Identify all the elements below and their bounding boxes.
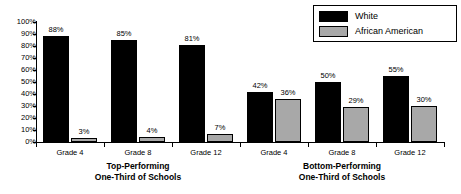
x-axis-separator (104, 142, 105, 147)
bar-value-label: 4% (133, 127, 171, 135)
y-axis-tick-label: 100% (2, 18, 36, 26)
bar-value-label: 50% (309, 72, 347, 80)
y-axis-line (36, 21, 37, 143)
group-title-line1: Top-Performing (48, 161, 228, 172)
group-title-line1: Bottom-Performing (252, 161, 432, 172)
y-axis-tick-label: 80% (2, 42, 36, 50)
bar-value-label: 7% (201, 124, 239, 132)
bar (383, 76, 409, 142)
bar (411, 106, 437, 142)
bar-value-label: 81% (173, 35, 211, 43)
x-axis-separator (36, 142, 37, 147)
bar (275, 99, 301, 142)
black-swatch-icon (319, 11, 348, 22)
y-axis-tick-label: 30% (2, 102, 36, 110)
legend-entry-african-american: African American (319, 25, 423, 38)
y-axis-tick-label: 20% (2, 114, 36, 122)
group-title: Bottom-PerformingOne-Third of Schools (252, 161, 432, 182)
legend-label-african-american: African American (355, 26, 423, 37)
bar-value-label: 30% (405, 96, 443, 104)
group-title-line2: One-Third of Schools (252, 172, 432, 183)
y-axis-tick-label: 10% (2, 126, 36, 134)
group-title: Top-PerformingOne-Third of Schools (48, 161, 228, 182)
bar-value-label: 36% (269, 89, 307, 97)
y-axis-tick-label: 70% (2, 54, 36, 62)
legend-entry-white: White (319, 10, 378, 23)
y-axis-tick-mark (33, 106, 36, 107)
x-axis-separator (376, 142, 377, 147)
y-axis-tick-mark (33, 22, 36, 23)
bar-value-label: 88% (37, 26, 75, 34)
bar-chart: 100%90%80%70%60%50%40%30%20%10%0% 88%3%8… (0, 0, 461, 194)
y-axis-tick-label: 0% (2, 138, 36, 146)
y-axis-tick-label: 90% (2, 30, 36, 38)
gray-swatch-icon (319, 26, 348, 37)
y-axis-tick-label: 50% (2, 78, 36, 86)
bar (71, 138, 97, 142)
y-axis-tick-mark (33, 46, 36, 47)
bar (247, 92, 273, 142)
y-axis-tick-mark (33, 58, 36, 59)
y-axis-tick-labels: 100%90%80%70%60%50%40%30%20%10%0% (0, 0, 36, 194)
x-axis-separator (308, 142, 309, 147)
bar (315, 82, 341, 142)
chart-legend: White African American (313, 5, 457, 42)
x-axis-separator (444, 142, 445, 147)
y-axis-tick-mark (33, 34, 36, 35)
bar-value-label: 85% (105, 30, 143, 38)
bar (43, 36, 69, 142)
legend-label-white: White (355, 11, 378, 22)
y-axis-tick-label: 60% (2, 66, 36, 74)
y-axis-tick-mark (33, 70, 36, 71)
bar-value-label: 29% (337, 97, 375, 105)
bar (207, 134, 233, 142)
y-axis-tick-mark (33, 94, 36, 95)
y-axis-tick-mark (33, 130, 36, 131)
bar (139, 137, 165, 142)
y-axis-tick-mark (33, 118, 36, 119)
y-axis-tick-label: 40% (2, 90, 36, 98)
x-axis-separator (240, 142, 241, 147)
y-axis-tick-mark (33, 82, 36, 83)
x-axis-category-label: Grade 12 (370, 148, 450, 157)
x-axis-separator (172, 142, 173, 147)
bar (343, 107, 369, 142)
bar-value-label: 55% (377, 66, 415, 74)
bar-value-label: 3% (65, 128, 103, 136)
group-title-line2: One-Third of Schools (48, 172, 228, 183)
